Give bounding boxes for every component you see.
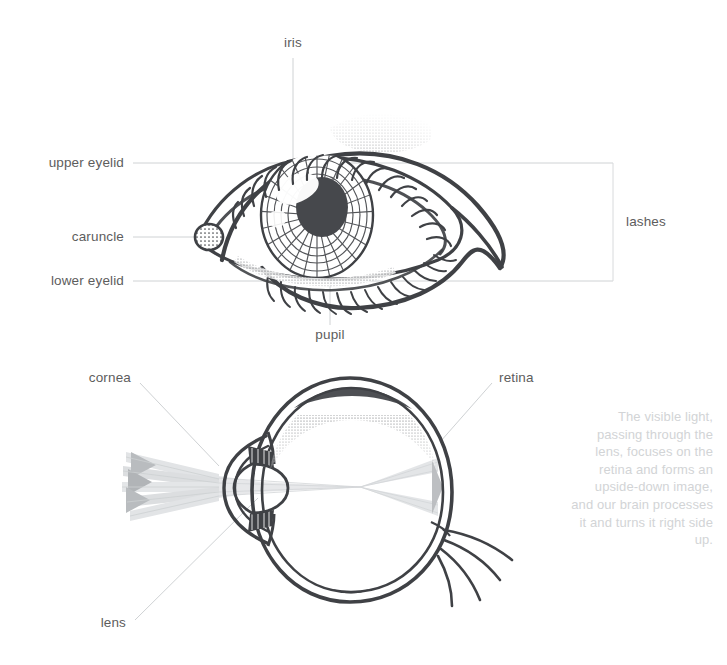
leader-retina <box>440 383 492 442</box>
external-eye-illustration <box>195 113 504 314</box>
label-lashes: lashes <box>626 215 666 229</box>
leader-cornea <box>140 383 219 466</box>
label-cornea: cornea <box>10 371 131 385</box>
sclera-bottom-mark <box>332 589 370 594</box>
label-iris: iris <box>263 36 323 50</box>
label-pupil: pupil <box>300 328 360 342</box>
leader-lens <box>135 498 258 620</box>
label-caruncle: caruncle <box>0 230 124 244</box>
label-retina: retina <box>499 371 534 385</box>
diagram-artwork <box>0 0 727 665</box>
caption-text: The visible light, passing through the l… <box>571 408 713 549</box>
light-beam-incoming <box>122 452 219 521</box>
caruncle-shape <box>195 224 223 250</box>
optic-nerve <box>438 530 512 606</box>
brow-stipple <box>330 113 432 153</box>
eye-anatomy-page: iris upper eyelid caruncle lower eyelid … <box>0 0 727 665</box>
label-lower-eyelid: lower eyelid <box>0 274 124 288</box>
label-upper-eyelid: upper eyelid <box>0 156 124 170</box>
eye-cross-section-illustration <box>122 378 512 606</box>
label-lens: lens <box>10 616 126 630</box>
